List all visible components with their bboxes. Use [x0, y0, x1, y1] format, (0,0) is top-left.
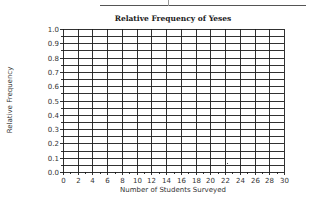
y-tick-label: 0.5	[48, 98, 59, 106]
x-tick-label: 6	[105, 177, 110, 185]
x-tick-label: 24	[236, 177, 245, 185]
x-tick-label: 16	[177, 177, 186, 185]
x-tick-label: 10	[133, 177, 142, 185]
x-tick-label: 30	[280, 177, 289, 185]
plot-area: 0.00.10.20.30.40.50.60.70.80.91.00246810…	[0, 0, 310, 206]
x-tick-label: 20	[206, 177, 215, 185]
y-tick-label: 0.0	[48, 169, 59, 177]
x-tick-label: 14	[162, 177, 171, 185]
x-tick-label: 4	[90, 177, 95, 185]
y-tick-label: 0.4	[48, 112, 60, 120]
stray-mark	[227, 163, 228, 164]
y-tick-label: 0.2	[48, 140, 59, 148]
y-tick-label: 0.6	[48, 83, 60, 91]
x-tick-label: 28	[265, 177, 274, 185]
x-tick-label: 0	[61, 177, 65, 185]
y-tick-label: 0.1	[48, 155, 59, 163]
x-tick-label: 8	[120, 177, 124, 185]
y-tick-label: 0.3	[48, 126, 59, 134]
y-tick-label: 0.7	[48, 69, 59, 77]
x-tick-label: 22	[221, 177, 230, 185]
y-tick-label: 0.8	[48, 55, 59, 63]
y-tick-label: 0.9	[48, 40, 59, 48]
x-tick-label: 12	[147, 177, 156, 185]
x-tick-label: 18	[192, 177, 201, 185]
x-tick-label: 26	[251, 177, 260, 185]
x-tick-label: 2	[76, 177, 80, 185]
y-tick-label: 1.0	[48, 26, 59, 34]
